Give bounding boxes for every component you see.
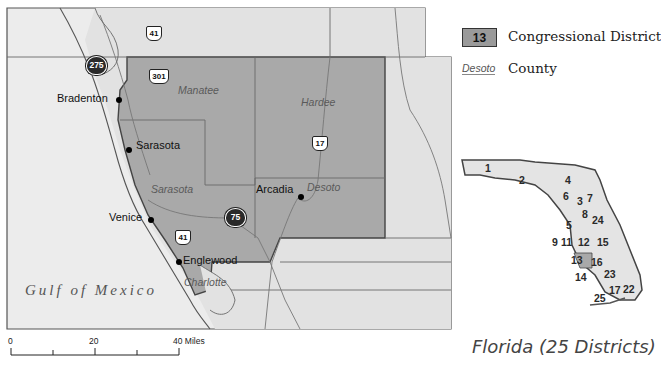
- inset-district-24: 24: [592, 214, 604, 226]
- us-41-shield-icon-south: 41: [175, 230, 191, 245]
- county-label-desoto: Desoto: [307, 181, 340, 193]
- county-label-sarasota: Sarasota: [151, 183, 193, 195]
- inset-district-5: 5: [566, 219, 572, 231]
- inset-title: Florida (25 Districts): [472, 336, 656, 357]
- county-label-hardee: Hardee: [301, 96, 335, 108]
- interstate-275-shield-icon: 275: [86, 56, 107, 75]
- scale-label-0: 0: [8, 336, 13, 346]
- inset-district-17: 17: [609, 284, 621, 296]
- city-label-sarasota: Sarasota: [136, 139, 180, 151]
- inset-district-2: 2: [519, 174, 525, 186]
- inset-district-16: 16: [591, 256, 603, 268]
- interstate-75-shield-icon: 75: [225, 208, 246, 227]
- inset-district-1: 1: [485, 162, 491, 174]
- inset-district-22: 22: [623, 283, 635, 295]
- city-label-bradenton: Bradenton: [57, 92, 108, 104]
- inset-district-12: 12: [578, 236, 590, 248]
- us-17-shield-icon: 17: [312, 136, 328, 151]
- inset-district-11: 11: [561, 236, 572, 248]
- legend-district-label: Congressional District: [508, 28, 661, 44]
- county-label-charlotte: Charlotte: [184, 276, 227, 288]
- scale-bar: [11, 348, 179, 355]
- inset-district-8: 8: [582, 208, 588, 220]
- county-label-manatee: Manatee: [178, 84, 219, 96]
- inset-district-7: 7: [587, 192, 593, 204]
- inset-district-15: 15: [597, 236, 609, 248]
- city-label-venice: Venice: [109, 211, 142, 223]
- legend-county-sample: Desoto: [462, 62, 495, 75]
- legend-county-label: County: [508, 60, 557, 76]
- inset-district-25: 25: [594, 292, 606, 304]
- inset-district-3: 3: [577, 195, 583, 207]
- city-dot-bradenton: [116, 97, 122, 103]
- inset-district-13: 13: [571, 254, 583, 266]
- city-label-arcadia: Arcadia: [256, 183, 293, 195]
- city-label-englewood: Englewood: [183, 254, 237, 266]
- city-dot-arcadia: [298, 194, 304, 200]
- city-dot-englewood: [176, 259, 182, 265]
- city-dot-venice: [148, 217, 154, 223]
- inset-district-14: 14: [575, 271, 587, 283]
- inset-district-4: 4: [565, 174, 571, 186]
- us-301-shield-icon: 301: [149, 69, 169, 84]
- scale-label-40-miles: 40 Miles: [173, 336, 205, 346]
- legend-district-swatch: 13: [462, 28, 497, 47]
- us-41-shield-icon: 41: [146, 26, 162, 41]
- inset-district-23: 23: [604, 268, 616, 280]
- inset-district-9: 9: [552, 236, 558, 248]
- water-label-gulf-of-mexico: Gulf of Mexico: [25, 282, 157, 299]
- city-dot-sarasota: [126, 147, 132, 153]
- scale-label-20: 20: [89, 336, 98, 346]
- inset-district-6: 6: [563, 190, 569, 202]
